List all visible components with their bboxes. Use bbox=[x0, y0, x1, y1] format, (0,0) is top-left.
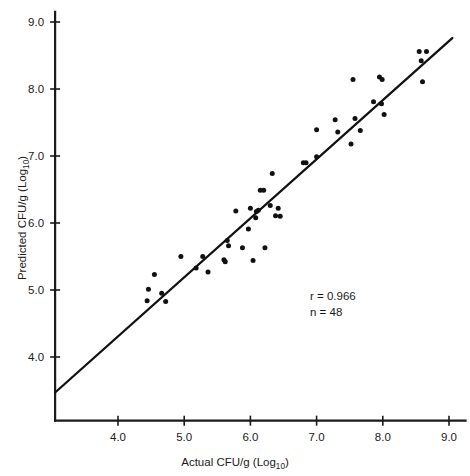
data-point bbox=[268, 203, 273, 208]
data-point bbox=[419, 58, 424, 63]
data-point bbox=[226, 243, 231, 248]
regression-line-group bbox=[55, 38, 452, 392]
data-point bbox=[253, 215, 258, 220]
data-point bbox=[382, 112, 387, 117]
data-point bbox=[225, 238, 230, 243]
data-point bbox=[371, 99, 376, 104]
data-point bbox=[276, 206, 281, 211]
axes-group bbox=[55, 12, 465, 421]
data-point bbox=[163, 299, 168, 304]
data-point bbox=[145, 298, 150, 303]
x-tick-label: 9.0 bbox=[441, 431, 457, 443]
y-tick-labels-group: 4.05.06.07.08.09.0 bbox=[28, 16, 44, 363]
data-point bbox=[256, 208, 261, 213]
data-point bbox=[278, 214, 283, 219]
data-point bbox=[270, 171, 275, 176]
data-point bbox=[304, 160, 309, 165]
data-point bbox=[152, 272, 157, 277]
data-point bbox=[358, 128, 363, 133]
data-point bbox=[333, 117, 338, 122]
data-point bbox=[246, 227, 251, 232]
x-tick-labels-group: 4.05.06.07.08.09.0 bbox=[110, 431, 457, 443]
x-axis-title-tail: ) bbox=[285, 456, 289, 468]
data-point bbox=[146, 287, 151, 292]
x-tick-label: 4.0 bbox=[110, 431, 126, 443]
x-axis-title-main: Actual CFU/g (Log bbox=[181, 456, 276, 468]
data-point bbox=[206, 269, 211, 274]
x-tick-label: 8.0 bbox=[375, 431, 391, 443]
data-point bbox=[251, 258, 256, 263]
data-point bbox=[417, 49, 422, 54]
data-point bbox=[379, 101, 384, 106]
data-point bbox=[273, 213, 278, 218]
regression-line bbox=[55, 38, 452, 392]
data-point bbox=[349, 141, 354, 146]
x-tick-label: 5.0 bbox=[176, 431, 192, 443]
y-tick-label: 4.0 bbox=[28, 351, 44, 363]
data-point bbox=[335, 129, 340, 134]
data-point bbox=[261, 188, 266, 193]
data-point bbox=[314, 127, 319, 132]
data-point bbox=[194, 265, 199, 270]
x-axis-title: Actual CFU/g (Log10) bbox=[181, 456, 289, 471]
data-point bbox=[248, 206, 253, 211]
svg-text:Actual CFU/g (Log10): Actual CFU/g (Log10) bbox=[181, 456, 289, 471]
y-axis-title-main: Predicted CFU/g (Log bbox=[16, 169, 28, 280]
data-point bbox=[223, 259, 228, 264]
x-tick-label: 6.0 bbox=[242, 431, 258, 443]
data-point bbox=[380, 77, 385, 82]
data-point bbox=[353, 116, 358, 121]
data-point bbox=[424, 49, 429, 54]
plot-canvas: 4.05.06.07.08.09.0 4.05.06.07.08.09.0 Ac… bbox=[0, 0, 470, 476]
x-axis-title-subscript: 10 bbox=[276, 462, 286, 471]
y-tick-label: 5.0 bbox=[28, 284, 44, 296]
data-point bbox=[314, 154, 319, 159]
data-point bbox=[178, 254, 183, 259]
y-tick-label: 9.0 bbox=[28, 16, 44, 28]
data-point bbox=[200, 254, 205, 259]
statistics-annotation: r = 0.966 n = 48 bbox=[310, 290, 356, 318]
y-axis-title-tail: ) bbox=[16, 156, 28, 160]
data-point bbox=[233, 208, 238, 213]
x-tick-label: 7.0 bbox=[309, 431, 325, 443]
scatter-plot-figure: 4.05.06.07.08.09.0 4.05.06.07.08.09.0 Ac… bbox=[0, 0, 470, 476]
data-point bbox=[159, 291, 164, 296]
correlation-label: r = 0.966 bbox=[310, 290, 356, 302]
data-point bbox=[351, 77, 356, 82]
y-tick-label: 6.0 bbox=[28, 217, 44, 229]
data-point bbox=[420, 79, 425, 84]
data-points-group bbox=[145, 49, 429, 304]
sample-size-label: n = 48 bbox=[310, 306, 342, 318]
data-point bbox=[240, 245, 245, 250]
data-point bbox=[262, 245, 267, 250]
tick-marks-group bbox=[50, 22, 449, 426]
y-tick-label: 8.0 bbox=[28, 83, 44, 95]
